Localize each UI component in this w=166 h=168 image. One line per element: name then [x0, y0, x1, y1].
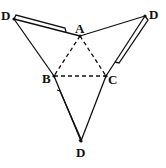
edge-d2-c: [106, 16, 145, 76]
label-c: C: [108, 72, 117, 87]
label-b: B: [42, 71, 51, 86]
label-d3: D: [76, 145, 85, 160]
point-b: [52, 74, 55, 77]
edge-a-d2: [80, 16, 145, 36]
label-d2: D: [149, 7, 158, 22]
point-d2: [143, 14, 146, 17]
point-d1: [12, 17, 15, 20]
tetrahedron-net-diagram: A B C D D D: [0, 0, 166, 168]
label-a: A: [75, 21, 85, 36]
fold-a-b: [54, 36, 80, 76]
label-d1: D: [1, 8, 10, 23]
point-d3: [79, 139, 82, 142]
fold-a-c: [80, 36, 106, 76]
edge-c-d3: [81, 76, 106, 141]
